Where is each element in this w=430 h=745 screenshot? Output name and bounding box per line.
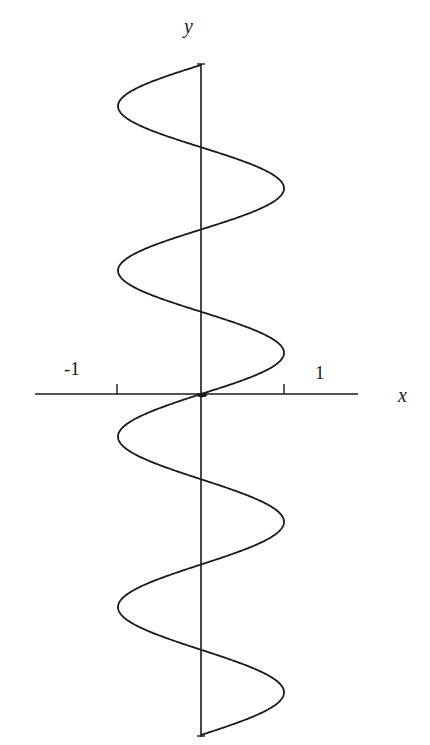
sine-curve-chart: y x -1 1 bbox=[0, 0, 430, 745]
x-tick-label-neg-one: -1 bbox=[64, 358, 80, 379]
x-axis-label: x bbox=[397, 384, 407, 406]
x-tick-label-pos-one: 1 bbox=[315, 362, 325, 383]
origin-marker bbox=[197, 393, 207, 397]
y-axis-label: y bbox=[182, 15, 193, 38]
